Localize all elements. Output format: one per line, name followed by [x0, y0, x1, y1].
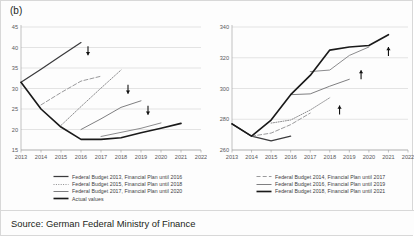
y-tick-label: 320	[220, 55, 229, 61]
y-tick-label: 40	[12, 45, 18, 51]
chart-right: 2602803003203402013201420152016201720182…	[208, 17, 414, 172]
legend-label: Federal Budget 2013, Financial Plan unti…	[72, 174, 182, 180]
chart-right-svg: 2602803003203402013201420152016201720182…	[208, 17, 414, 172]
legend-item[interactable]: Federal Budget 2016, Financial Plan unti…	[256, 180, 385, 187]
chart-left-svg: 1520253035404520132014201520162017201820…	[1, 17, 207, 172]
up-arrow-icon	[337, 106, 341, 115]
series-line	[232, 35, 388, 136]
legend-label: Federal Budget 2016, Financial Plan unti…	[275, 181, 385, 187]
source-caption: Source: German Federal Ministry of Finan…	[1, 218, 195, 229]
y-tick-label: 45	[12, 24, 18, 30]
y-tick-label: 280	[220, 116, 229, 122]
legend-item[interactable]: Federal Budget 2015, Financial Plan unti…	[53, 180, 182, 187]
legend-item[interactable]: Federal Budget 2017, Financial Plan unti…	[53, 188, 182, 195]
x-tick-label: 2018	[324, 154, 336, 160]
y-tick-label: 30	[12, 86, 18, 92]
x-tick-label: 2013	[15, 154, 27, 160]
x-tick-label: 2017	[95, 154, 107, 160]
legend-swatch-icon	[53, 188, 69, 195]
legend-item[interactable]: Federal Budget 2014, Financial Plan unti…	[256, 173, 385, 180]
down-arrow-icon	[146, 106, 150, 115]
up-arrow-icon	[359, 70, 363, 79]
x-tick-label: 2019	[343, 154, 355, 160]
series-line	[21, 43, 81, 83]
chart-area: 1520253035404520132014201520162017201820…	[1, 17, 414, 172]
legend-swatch-icon	[256, 173, 272, 180]
series-line	[21, 82, 181, 139]
legend-label: Actual values	[72, 196, 104, 202]
x-tick-label: 2014	[245, 154, 257, 160]
x-tick-label: 2016	[284, 154, 296, 160]
legends: Federal Budget 2013, Financial Plan unti…	[1, 173, 414, 209]
legend-label: Federal Budget 2015, Financial Plan unti…	[72, 181, 182, 187]
x-tick-label: 2016	[75, 154, 87, 160]
x-tick-label: 2017	[304, 154, 316, 160]
x-tick-label: 2022	[195, 154, 207, 160]
legend-swatch-icon	[256, 181, 272, 188]
x-tick-label: 2015	[55, 154, 67, 160]
legend-label: Federal Budget 2018, Financial Plan unti…	[275, 188, 385, 194]
x-tick-label: 2021	[175, 154, 187, 160]
series-line	[41, 76, 101, 105]
legend-swatch-icon	[256, 188, 272, 195]
up-arrow-icon	[386, 47, 390, 56]
legend-swatch-icon	[53, 181, 69, 188]
legend-swatch-icon	[53, 195, 69, 202]
x-tick-label: 2020	[363, 154, 375, 160]
legend-item[interactable]: Actual values	[53, 195, 182, 202]
y-tick-label: 35	[12, 65, 18, 71]
x-tick-label: 2014	[35, 154, 47, 160]
legend-right: Federal Budget 2014, Financial Plan unti…	[256, 173, 385, 195]
down-arrow-icon	[126, 85, 130, 94]
x-tick-label: 2020	[155, 154, 167, 160]
y-tick-label: 260	[220, 147, 229, 153]
source-bar: Source: German Federal Ministry of Finan…	[1, 210, 414, 235]
x-tick-label: 2022	[402, 154, 414, 160]
legend-label: Federal Budget 2014, Financial Plan unti…	[275, 174, 385, 180]
x-tick-label: 2018	[115, 154, 127, 160]
series-line	[81, 101, 141, 130]
y-tick-label: 340	[220, 24, 229, 30]
y-tick-label: 20	[12, 127, 18, 133]
y-tick-label: 300	[220, 86, 229, 92]
legend-item[interactable]: Federal Budget 2013, Financial Plan unti…	[53, 173, 182, 180]
panel-label: (b)	[10, 5, 22, 16]
x-tick-label: 2019	[135, 154, 147, 160]
series-line	[232, 124, 291, 141]
x-tick-label: 2015	[265, 154, 277, 160]
x-tick-label: 2013	[226, 154, 238, 160]
legend-left: Federal Budget 2013, Financial Plan unti…	[53, 173, 182, 203]
legend-item[interactable]: Federal Budget 2018, Financial Plan unti…	[256, 188, 385, 195]
series-line	[252, 113, 311, 136]
series-line	[310, 47, 369, 72]
x-tick-label: 2021	[382, 154, 394, 160]
legend-swatch-icon	[53, 173, 69, 180]
y-tick-label: 25	[12, 106, 18, 112]
y-tick-label: 15	[12, 147, 18, 153]
legend-label: Federal Budget 2017, Financial Plan unti…	[72, 188, 182, 194]
chart-left: 1520253035404520132014201520162017201820…	[1, 17, 207, 172]
